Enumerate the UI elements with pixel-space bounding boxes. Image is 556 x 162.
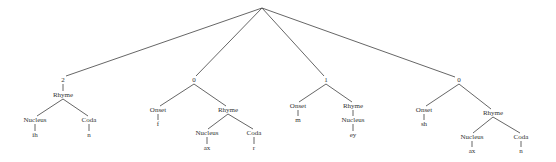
syllable-2-nucleus: Nucleus xyxy=(196,130,219,137)
syllable-2-nucleus-phone: ax xyxy=(204,145,211,152)
syllable-1-coda-phone: n xyxy=(87,132,91,139)
edge xyxy=(493,117,520,133)
syllable-2-onset: Onset xyxy=(150,107,166,114)
edge xyxy=(194,84,226,106)
syllable-2-coda-phone: r xyxy=(253,145,255,152)
syllable-tree-diagram: 2 Rhyme Nucleus ih Coda n 0 Onset f Rhym… xyxy=(0,0,556,162)
syllable-4-rhyme: Rhyme xyxy=(483,110,503,117)
edge xyxy=(37,99,63,116)
edge-root-syllable-4 xyxy=(262,8,455,77)
edge xyxy=(228,114,253,129)
syllable-3-onset: Onset xyxy=(290,103,306,110)
syllable-4-coda-phone: n xyxy=(519,148,523,155)
syllable-3-nucleus-phone: ey xyxy=(350,132,357,139)
syllable-2-rhyme: Rhyme xyxy=(218,107,238,114)
syllable-4-nucleus: Nucleus xyxy=(461,134,484,141)
edge xyxy=(459,84,491,109)
syllable-4-onset-phone: sh xyxy=(421,121,427,128)
edge xyxy=(63,99,88,116)
syllable-2-coda: Coda xyxy=(247,130,262,137)
edge xyxy=(326,84,352,102)
syllable-1-nucleus-phone: ih xyxy=(32,132,37,139)
syllable-4-nucleus-phone: ax xyxy=(469,148,476,155)
edge-root-syllable-2 xyxy=(196,8,262,76)
syllable-3-onset-phone: m xyxy=(295,117,300,124)
syllable-1-stress: 2 xyxy=(61,77,65,84)
edge-root-syllable-1 xyxy=(66,8,262,76)
syllable-4-coda: Coda xyxy=(514,134,529,141)
syllable-4-onset: Onset xyxy=(416,107,432,114)
edge xyxy=(299,84,326,102)
edge xyxy=(208,114,228,129)
syllable-3-rhyme: Rhyme xyxy=(343,103,363,110)
edge xyxy=(160,84,194,106)
syllable-3-stress: 1 xyxy=(324,77,328,84)
syllable-1-nucleus: Nucleus xyxy=(24,117,47,124)
edge xyxy=(426,84,459,106)
syllable-2-onset-phone: f xyxy=(157,121,159,128)
syllable-1-rhyme: Rhyme xyxy=(53,92,73,99)
syllable-2-stress: 0 xyxy=(192,77,196,84)
edge-root-syllable-3 xyxy=(262,8,324,76)
edge xyxy=(473,117,493,133)
syllable-4-stress: 0 xyxy=(457,77,461,84)
syllable-3-nucleus: Nucleus xyxy=(342,117,365,124)
syllable-1-coda: Coda xyxy=(82,117,97,124)
